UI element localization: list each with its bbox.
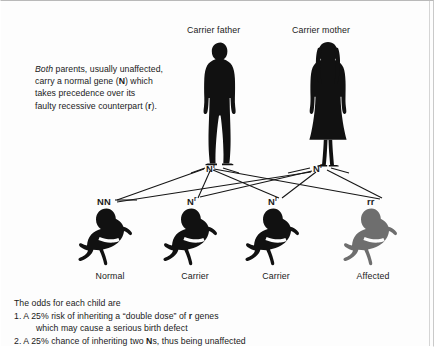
odds-item-1-continuation: which may cause a serious birth defect: [14, 322, 414, 335]
genotype-mother: Nr: [313, 163, 323, 174]
genotype-child-3: rr: [367, 196, 375, 207]
line-mother-to-child-3: [327, 170, 382, 198]
odds-item-2-b: s, thus being unaffected: [152, 336, 245, 346]
genotype-father: Nr: [206, 163, 216, 174]
caption-carrier-father: Carrier father: [187, 25, 240, 35]
intro-line1: parents, usually unaffected,: [53, 64, 163, 74]
baby-silhouette-child-1: [163, 209, 217, 266]
baby-silhouette-child-2: [245, 209, 299, 266]
caption-child-affected: Affected: [338, 271, 408, 281]
intro-line4-a: faulty recessive counterpart (: [35, 101, 148, 111]
genotype-child-0-main: NN: [97, 196, 111, 207]
intro-paragraph: Both parents, usually unaffected, carry …: [35, 63, 220, 112]
tick-father-left: [191, 168, 205, 173]
baby-silhouette-child-0: [78, 209, 132, 266]
odds-item-1-b: genes: [192, 311, 218, 321]
caption-child-carrier-1: Carrier: [160, 271, 230, 281]
gamete-connector-lines: [115, 168, 382, 202]
genotype-father-sup: r: [213, 162, 216, 169]
odds-item-2-a: 2. A 25% chance of inheriting two: [14, 336, 146, 346]
odds-item-1: 1. A 25% risk of inheriting a “double do…: [14, 310, 414, 323]
inheritance-diagram: Both parents, usually unaffected, carry …: [0, 0, 434, 347]
frame-border-right: [429, 1, 430, 347]
intro-line3: takes precedence over its: [35, 88, 135, 98]
genotype-child-0: NN: [97, 196, 111, 207]
line-father-to-child-2: [213, 170, 279, 198]
line-father-to-child-3: [214, 169, 380, 199]
odds-item-2: 2. A 25% chance of inheriting two Ns, th…: [14, 335, 414, 347]
line-mother-to-child-0: [117, 172, 311, 202]
odds-heading: The odds for each child are: [14, 297, 414, 310]
genotype-child-2-main: N: [268, 196, 275, 207]
intro-line4-b: ).: [151, 101, 156, 111]
odds-block: The odds for each child are 1. A 25% ris…: [14, 297, 414, 347]
genotype-child-2: Nr: [268, 196, 278, 207]
genotype-mother-main: N: [313, 163, 320, 174]
figures-and-lines-layer: [1, 1, 434, 347]
genotype-child-1: Nr: [187, 196, 197, 207]
tick-mother-left: [288, 168, 310, 173]
genotype-father-main: N: [206, 163, 213, 174]
genotype-child-2-sup: r: [275, 195, 278, 202]
baby-silhouette-child-3: [343, 209, 397, 266]
caption-carrier-mother: Carrier mother: [292, 25, 350, 35]
line-father-to-child-1: [198, 171, 210, 198]
genotype-child-1-main: N: [187, 196, 194, 207]
intro-line2-b: ) which: [125, 76, 153, 86]
adult-female-silhouette-mother: [309, 42, 346, 167]
tick-father-right: [223, 168, 239, 173]
line-mother-to-child-1: [200, 171, 312, 197]
line-mother-to-child-2: [282, 172, 316, 198]
intro-line2-a: carry a normal gene (: [35, 76, 119, 86]
tick-mother-right: [331, 168, 349, 173]
odds-item-1-a: 1. A 25% risk of inheriting a “double do…: [14, 311, 189, 321]
genotype-mother-sup: r: [320, 162, 323, 169]
genotype-child-1-sup: r: [194, 195, 197, 202]
intro-emphasis: Both: [35, 64, 53, 74]
genotype-child-3-main: rr: [367, 196, 375, 207]
caption-child-normal: Normal: [75, 271, 145, 281]
caption-child-carrier-2: Carrier: [241, 271, 311, 281]
